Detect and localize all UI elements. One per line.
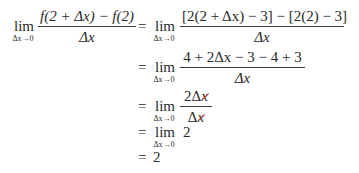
cancelled-variable: x — [197, 109, 204, 125]
lim-subscript: Δx→0 — [148, 34, 180, 43]
lim-subscript: Δx→0 — [148, 75, 180, 84]
equals-sign: = — [138, 60, 146, 75]
equals-sign: = — [138, 150, 146, 165]
lim-word: lim — [9, 19, 39, 34]
equals-sign: = — [138, 99, 146, 114]
final-result: 2 — [153, 150, 161, 165]
limit-operator: lim Δx→0 — [150, 60, 180, 84]
limit-operator: lim Δx→0 — [150, 19, 180, 43]
lim-word: lim — [150, 125, 180, 140]
equals-sign: = — [138, 19, 146, 34]
lim-subscript: Δx→0 — [148, 114, 180, 123]
simplified-quotient: 4 + 2Δx − 3 − 4 + 3 Δx — [180, 49, 305, 86]
lim-word: lim — [150, 99, 180, 114]
denominator: Δx — [180, 107, 212, 125]
limit-operator: lim Δx→0 — [9, 19, 39, 43]
lim-word: lim — [150, 19, 180, 34]
denominator: Δx — [180, 68, 305, 86]
numerator: f(2 + Δx) − f(2) — [38, 8, 136, 26]
numerator: 2Δx — [180, 88, 212, 106]
numerator-coefficient: 2Δ — [184, 88, 201, 104]
denominator: Δx — [180, 27, 344, 45]
limit-operator: lim Δx→0 — [150, 125, 180, 149]
lim-subscript: Δx→0 — [7, 34, 39, 43]
expanded-quotient: [2(2 + Δx) − 3] − [2(2) − 3] Δx — [180, 8, 344, 45]
equals-sign: = — [138, 125, 146, 140]
lim-subscript: Δx→0 — [148, 140, 180, 149]
cancelled-variable: x — [201, 88, 208, 104]
numerator: [2(2 + Δx) − 3] − [2(2) − 3] — [180, 8, 344, 26]
lim-word: lim — [150, 60, 180, 75]
denominator: Δx — [38, 27, 136, 45]
cancelled-quotient: 2Δx Δx — [180, 88, 212, 125]
limit-value: 2 — [183, 125, 191, 140]
numerator: 4 + 2Δx − 3 − 4 + 3 — [180, 49, 305, 67]
limit-operator: lim Δx→0 — [150, 99, 180, 123]
difference-quotient: f(2 + Δx) − f(2) Δx — [38, 8, 136, 45]
